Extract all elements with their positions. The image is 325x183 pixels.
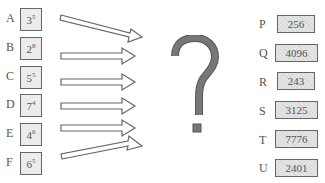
label-s: S [259,104,266,119]
arrow-icon-e [61,120,135,136]
value-box-p: 256 [277,15,315,33]
label-u: U [259,161,268,176]
value-box-r: 243 [277,72,315,90]
arrow-icon-c [61,74,135,90]
arrow-icon-f [61,136,142,159]
value-box-u: 2401 [275,159,318,177]
label-r: R [259,75,267,90]
value-box-t: 7776 [275,130,318,148]
arrow-icon-d [61,98,135,114]
arrow-icon-b [61,48,135,64]
arrow-icon-a [60,15,142,42]
label-t: T [259,133,266,148]
question-mark-icon [165,35,225,145]
label-p: P [259,17,266,32]
value-box-s: 3125 [275,101,318,119]
value-box-q: 4096 [275,44,318,62]
label-q: Q [259,46,268,61]
